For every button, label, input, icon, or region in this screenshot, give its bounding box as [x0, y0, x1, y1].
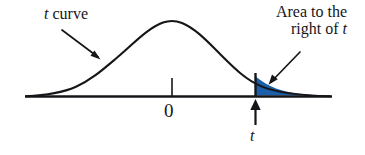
t-axis-pointer-arrow — [250, 99, 260, 125]
area-label-line-2-rest: right of — [291, 20, 343, 37]
origin-label: 0 — [164, 101, 174, 121]
t-curve-label: t curve — [44, 6, 88, 23]
area-label-italic-t: t — [343, 20, 347, 37]
area-right-of-t-label: Area to the right of t — [276, 4, 347, 38]
t-curve-leader-arrow — [62, 30, 101, 60]
area-label-line-1: Area to the — [276, 4, 347, 21]
t-distribution-figure: t curve Area to the right of t 0 t — [0, 0, 365, 155]
t-curve-label-rest: curve — [48, 5, 88, 22]
t-axis-label: t — [250, 128, 254, 145]
area-label-leader-arrow — [269, 52, 301, 85]
area-label-line-2: right of t — [276, 21, 347, 38]
